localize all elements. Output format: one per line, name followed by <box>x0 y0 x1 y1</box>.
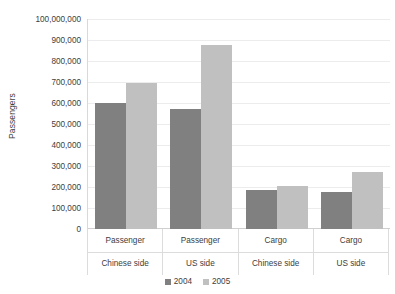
bars-layer <box>88 19 390 229</box>
legend-swatch-icon <box>165 279 171 285</box>
y-axis-tick-label: 100,000,000 <box>35 15 81 24</box>
bar-group <box>88 19 164 229</box>
bar[interactable] <box>126 83 157 229</box>
category-axis-cell: CargoUS side <box>314 229 389 275</box>
legend-item[interactable]: 2004 <box>165 277 192 286</box>
bar-chart: Passengers 100,000,000900,000800,000700,… <box>0 0 395 294</box>
y-axis-tick-label: 500,000 <box>51 120 81 129</box>
bar-group <box>315 19 391 229</box>
legend-label: 2005 <box>212 277 230 286</box>
bar-group <box>239 19 315 229</box>
bar[interactable] <box>352 172 383 229</box>
legend-item[interactable]: 2005 <box>203 277 230 286</box>
category-label-primary: Cargo <box>239 229 313 253</box>
category-axis: PassengerChinese sidePassengerUS sideCar… <box>87 229 389 275</box>
y-axis-tick-label: 400,000 <box>51 141 81 150</box>
category-label-primary: Passenger <box>88 229 162 253</box>
bar-group <box>164 19 240 229</box>
y-axis-title-label: Passengers <box>7 93 17 139</box>
category-axis-cell: PassengerUS side <box>163 229 238 275</box>
y-axis-tick-label: 100,000 <box>51 204 81 213</box>
y-axis-tick-label: 300,000 <box>51 162 81 171</box>
chart-legend: 20042005 <box>0 277 395 286</box>
category-label-secondary: Chinese side <box>239 253 313 276</box>
bar[interactable] <box>321 192 352 229</box>
y-axis-tick-label: 600,000 <box>51 99 81 108</box>
y-axis-tick-label: 0 <box>76 225 81 234</box>
category-label-primary: Passenger <box>163 229 237 253</box>
y-axis-tick-label: 700,000 <box>51 78 81 87</box>
category-label-primary: Cargo <box>314 229 388 253</box>
category-label-secondary: Chinese side <box>88 253 162 276</box>
legend-label: 2004 <box>174 277 192 286</box>
category-label-secondary: US side <box>163 253 237 276</box>
y-axis-tick-label: 200,000 <box>51 183 81 192</box>
category-label-secondary: US side <box>314 253 388 276</box>
y-axis-tick-label: 800,000 <box>51 57 81 66</box>
bar[interactable] <box>277 186 308 229</box>
bar[interactable] <box>201 45 232 229</box>
category-axis-cell: CargoChinese side <box>239 229 314 275</box>
bar[interactable] <box>95 103 126 229</box>
plot-area <box>87 19 390 229</box>
bar[interactable] <box>246 190 277 229</box>
category-axis-cell: PassengerChinese side <box>87 229 163 275</box>
y-axis-tick-label: 900,000 <box>51 36 81 45</box>
legend-swatch-icon <box>203 279 209 285</box>
bar[interactable] <box>170 109 201 229</box>
y-axis-tick-labels: 100,000,000900,000800,000700,000600,0005… <box>18 13 84 230</box>
